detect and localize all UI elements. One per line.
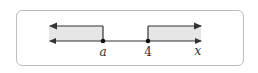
left-region-shade	[49, 26, 103, 41]
point-4-dot	[146, 39, 151, 44]
number-line-diagram: a 4 x	[0, 0, 258, 73]
right-region-shade	[148, 26, 201, 41]
point-a-dot	[101, 39, 106, 44]
point-a-label: a	[99, 45, 106, 59]
point-4-label: 4	[144, 45, 152, 59]
axis-label-x: x	[195, 44, 202, 58]
